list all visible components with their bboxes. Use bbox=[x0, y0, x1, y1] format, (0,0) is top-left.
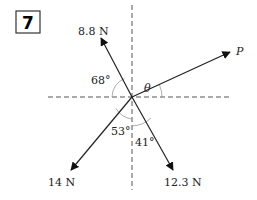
problem-number: 7 bbox=[22, 13, 34, 33]
angle-label-41: 41° bbox=[135, 136, 155, 149]
label-12-3n: 12.3 N bbox=[164, 176, 202, 189]
arc-68 bbox=[112, 79, 125, 98]
angle-label-theta: θ bbox=[144, 82, 151, 95]
problem-number-box: 7 bbox=[16, 11, 40, 33]
force-arrow-12-3n bbox=[132, 97, 173, 170]
label-8-8n: 8.8 N bbox=[78, 25, 109, 38]
angle-label-68: 68° bbox=[91, 74, 111, 87]
angle-label-53: 53° bbox=[111, 125, 131, 138]
force-arrow-8-8n bbox=[101, 38, 132, 97]
label-14n: 14 N bbox=[48, 176, 75, 189]
arc-theta bbox=[160, 85, 163, 97]
label-p: P bbox=[235, 45, 244, 58]
force-diagram: 7 8.8 N 14 N 12.3 N P 68° θ 53° 41° bbox=[0, 0, 257, 200]
